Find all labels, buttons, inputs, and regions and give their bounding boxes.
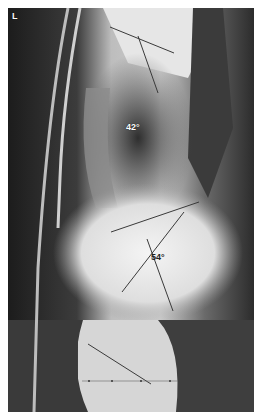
kyphosis-angle-label: 42° — [126, 122, 140, 132]
side-marker: L — [12, 11, 18, 21]
xray-image: L 42° 54° — [8, 8, 254, 412]
lordosis-angle-label: 54° — [151, 252, 165, 262]
xray-rendering — [8, 8, 254, 412]
